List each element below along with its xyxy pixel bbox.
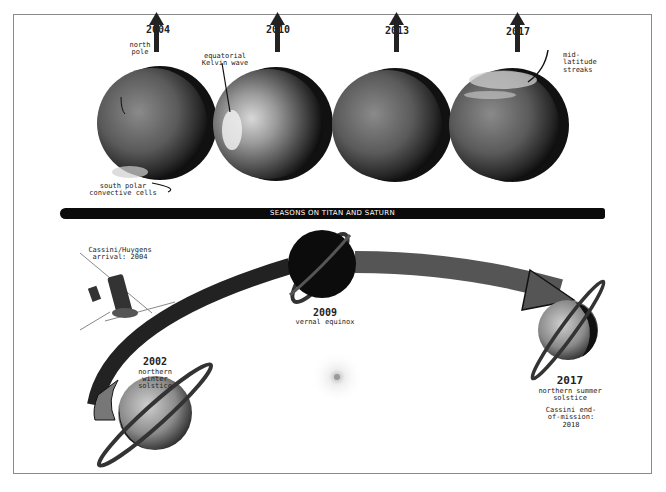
titan-2013 xyxy=(332,12,452,182)
sun-icon xyxy=(311,351,363,403)
saturn-2002-year: 2002 xyxy=(100,357,210,368)
titan-2004 xyxy=(97,12,217,180)
saturn-2017-event: northern summer solstice xyxy=(537,388,603,403)
titan-2010 xyxy=(213,12,333,181)
titan-2017 xyxy=(449,12,569,182)
saturn-2009-event: vernal equinox xyxy=(280,319,370,326)
south-polar-label: south polar convective cells xyxy=(78,183,168,198)
diagram-title: SEASONS ON TITAN AND SATURN xyxy=(60,208,605,219)
saturn-2002-label: 2002 northern winter solstice xyxy=(100,357,210,391)
saturn-2009 xyxy=(285,228,356,309)
north-pole-label: north pole xyxy=(124,42,156,57)
titan-year-2013: 2013 xyxy=(379,26,415,37)
titan-year-2004: 2004 xyxy=(140,25,176,36)
kelvin-wave-label: equatorial Kelvin wave xyxy=(200,53,250,68)
saturn-2009-year: 2009 xyxy=(280,308,370,319)
saturn-2017-year: 2017 xyxy=(525,375,615,387)
mid-latitude-label: mid-latitude streaks xyxy=(563,52,597,74)
titan-year-2017: 2017 xyxy=(500,27,536,38)
saturn-2017-label: 2017 northern summer solstice xyxy=(525,375,615,402)
titan-year-2010: 2010 xyxy=(260,25,296,36)
saturn-2002-event: northern winter solstice xyxy=(125,369,185,391)
saturn-2009-label: 2009 vernal equinox xyxy=(280,308,370,326)
mission-end-label: Cassini end-of-mission: 2018 xyxy=(540,407,602,429)
cassini-arrival-label: Cassini/Huygens arrival: 2004 xyxy=(87,247,153,262)
title-banner: SEASONS ON TITAN AND SATURN xyxy=(60,208,605,219)
